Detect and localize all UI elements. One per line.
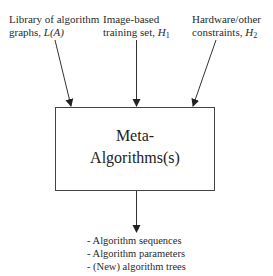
label-text: constraints, bbox=[192, 26, 245, 38]
meta-algorithms-box: Meta- Algorithms(s) bbox=[55, 107, 215, 191]
output-item: - (New) algorithm trees bbox=[87, 260, 186, 273]
math-symbol: L(A) bbox=[44, 26, 64, 38]
math-subscript: 1 bbox=[166, 31, 170, 40]
box-title-line: Meta- bbox=[56, 125, 214, 147]
label-text: graphs, bbox=[9, 26, 44, 38]
box-title: Meta- Algorithms(s) bbox=[56, 125, 214, 169]
input-label-library: Library of algorithm graphs, L(A) bbox=[9, 13, 99, 39]
output-list: - Algorithm sequences - Algorithm parame… bbox=[87, 234, 186, 273]
arrow-library-to-box bbox=[55, 40, 71, 106]
math-subscript: 2 bbox=[253, 31, 257, 40]
math-symbol: H bbox=[245, 26, 253, 38]
input-label-constraints: Hardware/other constraints, H2 bbox=[192, 13, 261, 39]
math-symbol: H bbox=[158, 26, 166, 38]
output-item: - Algorithm parameters bbox=[87, 247, 186, 260]
input-label-training-set: Image-based training set, H1 bbox=[103, 13, 170, 39]
arrow-constraints-to-box bbox=[193, 40, 216, 106]
input-label-line: Library of algorithm bbox=[9, 13, 99, 26]
input-label-line: Image-based bbox=[103, 13, 170, 26]
label-text: training set, bbox=[103, 26, 158, 38]
input-label-line: training set, H1 bbox=[103, 26, 170, 39]
box-title-line: Algorithms(s) bbox=[56, 147, 214, 169]
input-label-line: Hardware/other bbox=[192, 13, 261, 26]
meta-algorithm-diagram: Library of algorithm graphs, L(A) Image-… bbox=[0, 0, 273, 276]
input-label-line: constraints, H2 bbox=[192, 26, 261, 39]
output-item: - Algorithm sequences bbox=[87, 234, 186, 247]
input-label-line: graphs, L(A) bbox=[9, 26, 99, 39]
